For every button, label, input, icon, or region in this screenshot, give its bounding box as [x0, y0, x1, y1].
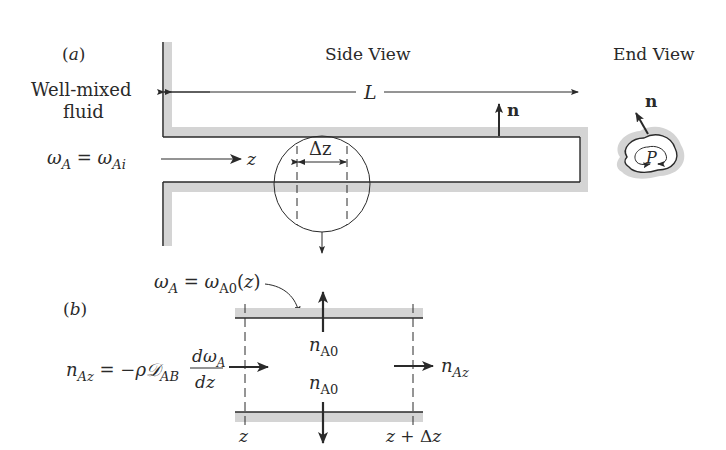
left-boundary-label: z — [238, 426, 249, 446]
z-axis-label: z — [246, 149, 257, 169]
wall-flux-top: nA0 — [309, 292, 338, 359]
wall-condition: ωA = ωA0(z) — [154, 271, 261, 296]
end-view-cross-section: P n — [617, 91, 684, 179]
panel-a: (a) Side View End View Well-mixed fluid … — [31, 42, 695, 253]
flux-in: nAz = −ρ𝒟AB dωA dz — [66, 346, 268, 392]
flux-in-denominator: dz — [195, 372, 216, 392]
flux-in-expression: nAz = −ρ𝒟AB — [66, 359, 179, 384]
end-view-title: End View — [613, 44, 695, 64]
wall-flux-bottom-label: nA0 — [309, 372, 338, 397]
panel-b: (b) ωA = ωA0(z) nA0 nA0 nAz = −ρ𝒟AB dωA — [63, 271, 469, 446]
wall-flux-bottom: nA0 — [309, 372, 338, 443]
panel-b-label: (b) — [63, 299, 87, 319]
z-axis: z — [161, 149, 257, 169]
flux-out: nAz — [394, 355, 469, 380]
tank-wall — [162, 42, 588, 246]
perimeter-label: P — [645, 148, 657, 167]
wall-flux-top-label: nA0 — [309, 334, 338, 359]
flux-in-numerator: dωA — [192, 346, 226, 370]
element-length-label: Δz — [309, 138, 331, 159]
flux-out-label: nAz — [441, 355, 469, 380]
mass-transfer-diagram: (a) Side View End View Well-mixed fluid … — [0, 0, 726, 450]
fluid-label-line1: Well-mixed — [31, 79, 131, 100]
normal-label: n — [507, 100, 519, 120]
panel-a-label: (a) — [62, 44, 85, 64]
end-view-normal-label: n — [645, 91, 657, 111]
inlet-condition: ωA = ωAi — [47, 147, 126, 172]
right-boundary-label: z + Δz — [385, 426, 442, 446]
length-label: L — [363, 81, 377, 103]
side-view-title: Side View — [325, 44, 411, 64]
fluid-label-line2: fluid — [63, 101, 104, 122]
